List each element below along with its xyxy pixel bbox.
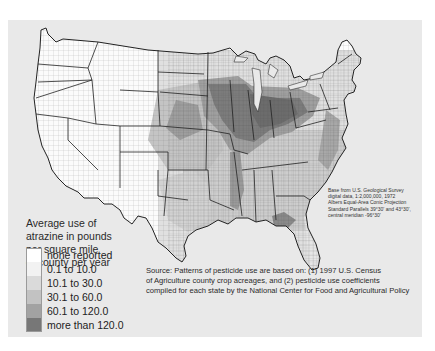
legend-item: 60.1 to 120.0 <box>26 304 123 318</box>
legend-label: none reported <box>47 249 112 261</box>
legend-swatch <box>26 248 42 262</box>
legend-swatch <box>26 276 42 290</box>
map-panel: Average use of atrazine in pounds per sq… <box>8 20 422 337</box>
legend: none reported 0.1 to 10.0 10.1 to 30.0 3… <box>26 248 123 332</box>
legend-swatch <box>26 318 42 332</box>
base-note-line: central meridian -96°30' <box>328 212 423 218</box>
legend-label: more than 120.0 <box>47 319 123 331</box>
source-line: compiled for each state by the National … <box>146 286 426 296</box>
legend-swatch <box>26 262 42 276</box>
legend-label: 10.1 to 30.0 <box>47 277 102 289</box>
legend-item: none reported <box>26 248 123 262</box>
legend-title-line: Average use of <box>26 217 136 230</box>
legend-label: 0.1 to 10.0 <box>47 263 97 275</box>
legend-item: 10.1 to 30.0 <box>26 276 123 290</box>
legend-title-line: atrazine in pounds <box>26 230 136 243</box>
legend-swatch <box>26 304 42 318</box>
base-map-note: Base from U.S. Geological Survey digital… <box>328 187 423 218</box>
legend-label: 60.1 to 120.0 <box>47 305 108 317</box>
legend-swatch <box>26 290 42 304</box>
legend-item: more than 120.0 <box>26 318 123 332</box>
legend-label: 30.1 to 60.0 <box>47 291 102 303</box>
source-line: of Agriculture county crop acreages, and… <box>146 276 426 286</box>
legend-item: 0.1 to 10.0 <box>26 262 123 276</box>
source-line: Source: Patterns of pesticide use are ba… <box>146 266 426 276</box>
base-note-line: Standard Parallels 39°30' and 43°30', <box>328 206 423 212</box>
source-note: Source: Patterns of pesticide use are ba… <box>146 266 426 296</box>
legend-item: 30.1 to 60.0 <box>26 290 123 304</box>
